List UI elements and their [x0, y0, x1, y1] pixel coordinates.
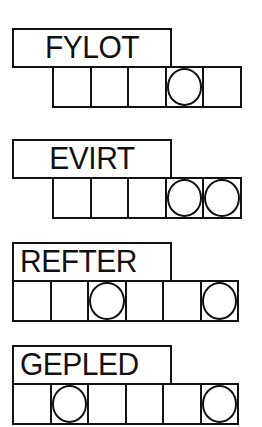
- answer-cell-2[interactable]: [90, 177, 130, 219]
- answer-cell-1[interactable]: [12, 383, 52, 425]
- scrambled-word: FYLOT: [45, 33, 139, 64]
- answer-cell-2[interactable]: [50, 280, 90, 322]
- scrambled-word: GEPLED: [20, 350, 139, 381]
- scrambled-word-box: EVIRT: [12, 139, 172, 179]
- answer-cell-1[interactable]: [52, 66, 92, 108]
- answer-cell-1[interactable]: [12, 280, 52, 322]
- answer-cell-2[interactable]: [90, 66, 130, 108]
- scrambled-word-box: GEPLED: [12, 345, 172, 385]
- answer-cell-2-circled[interactable]: [50, 383, 90, 425]
- answer-cell-4-circled[interactable]: [165, 177, 205, 219]
- answer-cell-4-circled[interactable]: [165, 66, 205, 108]
- answer-cell-4[interactable]: [125, 280, 165, 322]
- answer-cell-5-circled[interactable]: [202, 177, 242, 219]
- answer-cell-4[interactable]: [125, 383, 165, 425]
- answer-cell-6-circled[interactable]: [200, 280, 240, 322]
- scrambled-word: REFTER: [20, 247, 137, 278]
- answer-grid: [52, 177, 242, 219]
- answer-grid: [12, 383, 239, 425]
- answer-cell-5[interactable]: [162, 383, 202, 425]
- answer-cell-5[interactable]: [202, 66, 242, 108]
- answer-grid: [52, 66, 242, 108]
- scrambled-word: EVIRT: [49, 144, 134, 175]
- answer-cell-3[interactable]: [127, 177, 167, 219]
- answer-grid: [12, 280, 239, 322]
- answer-cell-3-circled[interactable]: [87, 280, 127, 322]
- answer-cell-5[interactable]: [162, 280, 202, 322]
- answer-cell-6-circled[interactable]: [200, 383, 240, 425]
- answer-cell-1[interactable]: [52, 177, 92, 219]
- scrambled-word-box: REFTER: [12, 242, 172, 282]
- scrambled-word-box: FYLOT: [12, 28, 172, 68]
- answer-cell-3[interactable]: [127, 66, 167, 108]
- answer-cell-3[interactable]: [87, 383, 127, 425]
